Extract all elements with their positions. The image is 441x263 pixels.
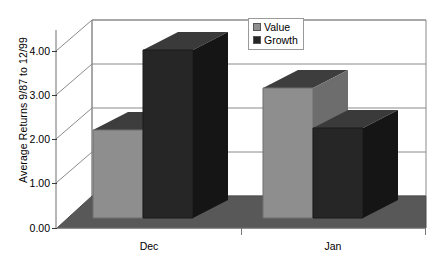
y-axis-title: Average Returns 9/87 to 12/99 xyxy=(17,25,29,195)
legend-label-value: Value xyxy=(264,21,290,34)
y-tick-mark-4 xyxy=(52,51,57,52)
depth-edge-3 xyxy=(56,64,92,95)
depth-edge-1 xyxy=(56,152,92,183)
y-tick-mark-2 xyxy=(52,139,57,140)
bar-side-face xyxy=(193,32,228,218)
x-tick-mark-dec xyxy=(241,228,242,235)
legend-swatch-icon xyxy=(253,36,261,44)
legend-item-growth: Growth xyxy=(253,34,298,47)
x-tick-label-jan: Jan xyxy=(298,240,368,252)
bar-dec-growth xyxy=(143,32,228,218)
chart-plot-area xyxy=(0,0,441,263)
bar-jan-growth xyxy=(313,110,398,218)
y-tick-mark-1 xyxy=(52,183,57,184)
legend-item-value: Value xyxy=(253,21,298,34)
bar-chart-figure: 4.00 3.00 2.00 1.00 0.00 Average Returns… xyxy=(0,0,441,263)
depth-edge-2 xyxy=(56,108,92,139)
x-tick-label-dec: Dec xyxy=(114,240,184,252)
bar-front-face xyxy=(93,130,143,218)
bar-front-face xyxy=(313,128,363,218)
bar-front-face xyxy=(143,50,193,218)
depth-edge-4 xyxy=(56,20,92,51)
legend-swatch-icon xyxy=(253,23,261,31)
bar-side-face xyxy=(363,110,398,218)
y-tick-label-0: 0.00 xyxy=(16,223,50,233)
legend-label-growth: Growth xyxy=(264,34,298,47)
chart-legend: Value Growth xyxy=(248,18,304,50)
y-tick-mark-3 xyxy=(52,95,57,96)
bar-front-face xyxy=(263,88,313,218)
x-tick-mark-jan xyxy=(425,228,426,235)
y-tick-mark-0 xyxy=(52,228,57,229)
